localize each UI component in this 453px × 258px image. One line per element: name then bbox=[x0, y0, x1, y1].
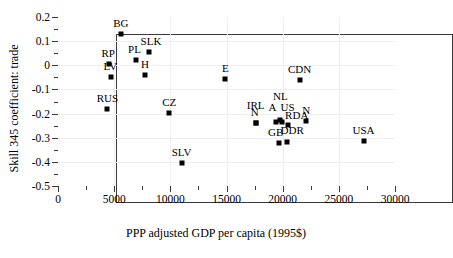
x-tick-major bbox=[339, 186, 340, 192]
data-point-marker bbox=[167, 110, 172, 115]
x-tick-minor bbox=[86, 186, 87, 190]
y-tick-label: -0.4 bbox=[32, 156, 50, 168]
y-tick-major bbox=[52, 138, 58, 139]
data-point-label: RP bbox=[101, 48, 114, 59]
data-point-marker bbox=[179, 160, 184, 165]
data-point-marker bbox=[276, 140, 281, 145]
x-tick-label: 0 bbox=[55, 193, 61, 205]
y-tick-label: -0.2 bbox=[32, 108, 50, 120]
y-tick-label: 0.1 bbox=[36, 35, 50, 47]
data-point-label: SLK bbox=[141, 36, 162, 47]
data-point-marker bbox=[105, 107, 110, 112]
y-tick-minor bbox=[54, 102, 58, 103]
data-point-marker bbox=[304, 119, 309, 124]
x-tick-label: 5000 bbox=[103, 193, 126, 205]
data-point-label: A bbox=[269, 102, 277, 113]
x-axis-title: PPP adjusted GDP per capita (1995$) bbox=[0, 226, 432, 241]
y-tick-label: -0.5 bbox=[32, 180, 50, 192]
data-point-marker bbox=[297, 77, 302, 82]
data-point-label: DDR bbox=[281, 125, 304, 136]
x-tick-label: 10000 bbox=[156, 193, 185, 205]
x-tick-major bbox=[283, 186, 284, 192]
y-tick-major bbox=[52, 186, 58, 187]
y-tick-major bbox=[52, 89, 58, 90]
gridline-horizontal bbox=[58, 114, 395, 115]
y-tick-minor bbox=[54, 53, 58, 54]
gridline-vertical bbox=[339, 17, 340, 186]
x-tick-major bbox=[170, 186, 171, 192]
x-tick-label: 15000 bbox=[212, 193, 241, 205]
x-tick-major bbox=[227, 186, 228, 192]
data-point-label: USA bbox=[353, 125, 375, 136]
y-tick-major bbox=[52, 65, 58, 66]
x-tick-minor bbox=[311, 186, 312, 190]
y-tick-label: 0 bbox=[44, 59, 50, 71]
data-point-label: RUS bbox=[97, 93, 118, 104]
data-point-label: LV bbox=[104, 61, 118, 72]
data-point-label: BG bbox=[113, 18, 128, 29]
data-point-marker bbox=[361, 138, 366, 143]
y-tick-minor bbox=[54, 150, 58, 151]
y-tick-minor bbox=[54, 29, 58, 30]
y-tick-label: -0.1 bbox=[32, 83, 50, 95]
y-tick-major bbox=[52, 162, 58, 163]
y-tick-minor bbox=[54, 77, 58, 78]
x-tick-major bbox=[58, 186, 59, 192]
data-point-label: CDN bbox=[288, 64, 311, 75]
data-point-marker bbox=[118, 31, 123, 36]
x-tick-minor bbox=[255, 186, 256, 190]
x-tick-minor bbox=[142, 186, 143, 190]
x-tick-minor bbox=[367, 186, 368, 190]
data-point-label: PL bbox=[128, 44, 141, 55]
y-tick-label: 0.2 bbox=[36, 11, 50, 23]
data-point-marker bbox=[285, 140, 290, 145]
y-tick-minor bbox=[54, 174, 58, 175]
data-point-label: E bbox=[222, 63, 229, 74]
y-tick-label: -0.3 bbox=[32, 132, 50, 144]
y-tick-major bbox=[52, 17, 58, 18]
gridline-horizontal bbox=[58, 89, 395, 90]
y-axis-title: Skill 345 coefficient: trade bbox=[7, 29, 22, 189]
gridline-horizontal bbox=[58, 162, 395, 163]
data-point-label: H bbox=[141, 59, 149, 70]
data-point-marker bbox=[253, 120, 258, 125]
gridline-horizontal bbox=[58, 138, 395, 139]
gridline-horizontal bbox=[58, 41, 395, 42]
data-point-label: N bbox=[251, 107, 259, 118]
data-point-marker bbox=[133, 58, 138, 63]
data-point-label: SLV bbox=[172, 147, 192, 158]
x-tick-label: 25000 bbox=[324, 193, 353, 205]
data-point-marker bbox=[109, 74, 114, 79]
plot-area: 0500010000150002000025000300000.20.10-0.… bbox=[58, 17, 395, 186]
y-tick-major bbox=[52, 114, 58, 115]
data-point-marker bbox=[223, 77, 228, 82]
y-tick-major bbox=[52, 41, 58, 42]
x-tick-label: 30000 bbox=[381, 193, 410, 205]
x-tick-major bbox=[395, 186, 396, 192]
gridline-vertical bbox=[227, 17, 228, 186]
data-point-marker bbox=[146, 50, 151, 55]
y-tick-minor bbox=[54, 126, 58, 127]
data-point-label: CZ bbox=[162, 97, 176, 108]
data-point-label: N bbox=[302, 105, 310, 116]
x-tick-label: 20000 bbox=[268, 193, 297, 205]
x-tick-major bbox=[114, 186, 115, 192]
x-tick-minor bbox=[198, 186, 199, 190]
data-point-marker bbox=[143, 73, 148, 78]
